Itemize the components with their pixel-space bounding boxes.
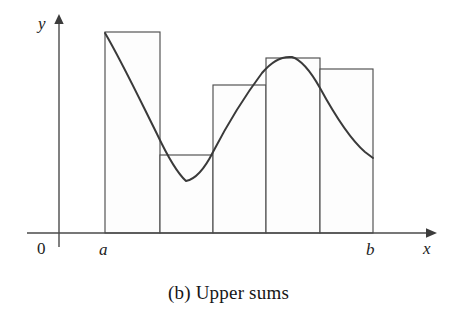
x-axis-arrowhead xyxy=(426,228,437,238)
upper-sum-bars xyxy=(105,32,373,233)
lower-limit-label-a: a xyxy=(99,240,108,259)
y-axis-label: y xyxy=(36,14,46,33)
origin-label: 0 xyxy=(37,239,46,258)
figure-caption: (b) Upper sums xyxy=(0,282,457,304)
y-axis xyxy=(54,14,63,247)
bar-rect-1 xyxy=(105,32,160,233)
upper-sums-diagram: y x 0 a b xyxy=(0,0,457,324)
bar-rect-4 xyxy=(266,58,320,233)
figure-container: y x 0 a b (b) Upper sums xyxy=(0,0,457,324)
upper-limit-label-b: b xyxy=(366,240,375,259)
y-axis-arrowhead xyxy=(54,14,63,24)
x-axis-label: x xyxy=(422,239,431,258)
